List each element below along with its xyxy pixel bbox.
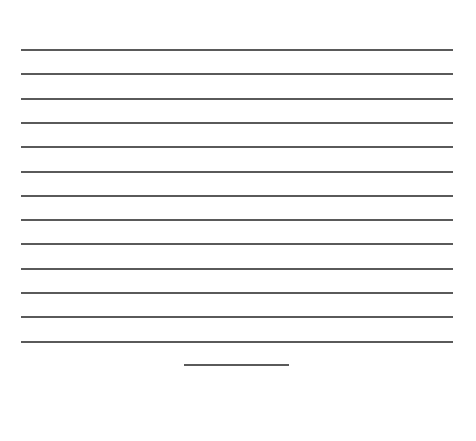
ruled-line [21, 171, 453, 173]
ruled-line [21, 292, 453, 294]
ruled-line [21, 243, 453, 245]
short-centered-line [184, 364, 289, 366]
ruled-line [21, 219, 453, 221]
ruled-line [21, 195, 453, 197]
ruled-line [21, 122, 453, 124]
ruled-line [21, 316, 453, 318]
ruled-line [21, 268, 453, 270]
ruled-line [21, 49, 453, 51]
ruled-line [21, 341, 453, 343]
ruled-line [21, 146, 453, 148]
lined-page [0, 0, 476, 441]
ruled-line [21, 73, 453, 75]
ruled-line [21, 98, 453, 100]
